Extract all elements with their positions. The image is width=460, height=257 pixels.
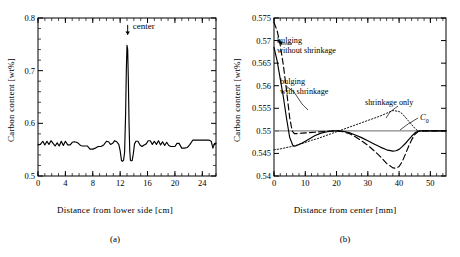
- svg-text:0.575: 0.575: [252, 13, 271, 23]
- svg-text:8: 8: [91, 178, 95, 188]
- svg-text:30: 30: [364, 178, 373, 188]
- annotation-center: center: [133, 21, 155, 31]
- svg-text:10: 10: [301, 178, 310, 188]
- svg-text:50: 50: [426, 178, 435, 188]
- panel-b: Carbon content [wt%] Distance from cente…: [230, 0, 460, 257]
- svg-text:0.56: 0.56: [256, 81, 271, 91]
- annotation-bulging-without-line2: without shrinkage: [277, 46, 336, 56]
- svg-text:40: 40: [395, 178, 404, 188]
- svg-text:0: 0: [36, 178, 40, 188]
- svg-text:20: 20: [332, 178, 341, 188]
- annotation-bulging-with-shrinkage: bulging with shrinkage: [280, 77, 328, 97]
- annotation-c0: C0: [420, 112, 429, 124]
- annotation-bulging-without-shrinkage: bulging without shrinkage: [277, 36, 336, 56]
- panel-b-plot: 010203040500.540.5450.550.5550.560.5650.…: [230, 0, 460, 257]
- annotation-c0-subscript: 0: [426, 118, 429, 124]
- svg-text:0.5: 0.5: [24, 171, 35, 181]
- panel-b-caption: (b): [230, 234, 460, 244]
- panel-b-x-axis-title: Distance from center [mm]: [230, 205, 460, 215]
- svg-text:24: 24: [198, 178, 207, 188]
- panel-a: Carbon content [wt%] Distance from lower…: [0, 0, 230, 257]
- svg-text:0.555: 0.555: [252, 103, 271, 113]
- svg-text:0.8: 0.8: [24, 13, 35, 23]
- annotation-shrinkage-only: shrinkage only: [365, 98, 413, 108]
- panel-a-plot: 048121620240.50.60.70.8center: [0, 0, 230, 257]
- annotation-bulging-with-line2: with shrinkage: [280, 87, 328, 97]
- panel-a-caption: (a): [0, 234, 230, 244]
- svg-text:0.57: 0.57: [256, 36, 271, 46]
- svg-text:0.54: 0.54: [256, 171, 272, 181]
- panel-b-y-axis-title: Carbon content [wt%]: [232, 30, 242, 170]
- svg-text:0: 0: [272, 178, 276, 188]
- svg-text:4: 4: [63, 178, 68, 188]
- panel-a-y-axis-title: Carbon content [wt%]: [6, 30, 16, 170]
- panel-a-x-axis-title: Distance from lower side [cm]: [0, 205, 230, 215]
- svg-text:0.545: 0.545: [252, 148, 271, 158]
- svg-text:0.7: 0.7: [24, 66, 35, 76]
- svg-text:20: 20: [171, 178, 180, 188]
- annotation-bulging-with-line1: bulging: [280, 77, 328, 87]
- figure-container: Carbon content [wt%] Distance from lower…: [0, 0, 460, 257]
- annotation-bulging-without-line1: bulging: [277, 36, 336, 46]
- svg-text:0.6: 0.6: [24, 118, 35, 128]
- svg-text:12: 12: [116, 178, 125, 188]
- svg-text:0.55: 0.55: [256, 126, 271, 136]
- svg-text:0.565: 0.565: [252, 58, 271, 68]
- svg-text:16: 16: [143, 178, 152, 188]
